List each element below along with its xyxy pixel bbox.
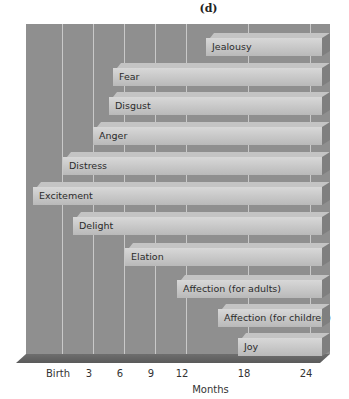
bar-label: Distress [63, 157, 322, 175]
x-tick-label: 6 [117, 368, 123, 379]
emotion-bar: Delight [73, 212, 330, 236]
bar-label: Joy [238, 338, 322, 356]
emotion-bar: Distress [63, 152, 330, 176]
bar-label: Excitement [33, 187, 322, 205]
emotion-bar: Jealousy [206, 33, 330, 57]
emotion-bar: Anger [93, 122, 330, 146]
x-tick-label: Birth [46, 368, 70, 379]
emotion-bar: Excitement [33, 182, 330, 206]
emotion-bar: Affection (for adults) [177, 275, 330, 299]
emotion-bar: Disgust [109, 92, 330, 116]
x-tick-label: 12 [176, 368, 189, 379]
bar-label: Fear [113, 68, 322, 86]
panel-label: (d) [0, 2, 349, 15]
emotion-bar: Fear [113, 63, 330, 87]
bar-label: Anger [93, 127, 322, 145]
emotion-bar: Elation [125, 243, 330, 267]
x-axis-title: Months [0, 384, 349, 395]
x-tick-label: 24 [300, 368, 313, 379]
bar-label: Disgust [109, 97, 322, 115]
x-tick-label: 18 [238, 368, 251, 379]
x-tick-label: 3 [86, 368, 92, 379]
bar-label: Affection (for adults) [177, 280, 322, 298]
bar-label: Elation [125, 248, 322, 266]
emotion-bar: Joy [238, 333, 330, 357]
bar-label: Jealousy [206, 38, 322, 56]
bar-label: Delight [73, 217, 322, 235]
x-tick-label: 9 [148, 368, 154, 379]
emotion-bar: Affection (for children) [218, 304, 330, 328]
bar-label: Affection (for children) [218, 309, 322, 327]
